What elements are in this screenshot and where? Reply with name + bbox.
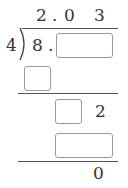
quotient-digit-2: 2 [36, 7, 47, 24]
first-product-blank[interactable] [24, 66, 51, 91]
division-bracket [15, 27, 29, 61]
subtraction-line-2 [18, 161, 118, 162]
remainder: 0 [93, 165, 104, 182]
dividend-decimal-point: . [48, 37, 53, 54]
second-difference-blank[interactable] [55, 99, 82, 124]
quotient-decimal-point: . [52, 7, 57, 24]
dividend-decimal-blank[interactable] [56, 33, 113, 58]
quotient-digit-3: 3 [94, 7, 105, 24]
third-product-blank[interactable] [55, 133, 113, 158]
divisor: 4 [6, 37, 17, 54]
division-bar [22, 28, 118, 29]
brought-down-digit-2: 2 [95, 103, 106, 120]
quotient-digit-0: 0 [64, 7, 75, 24]
dividend-whole: 8 [32, 37, 43, 54]
subtraction-line-1 [18, 93, 118, 94]
